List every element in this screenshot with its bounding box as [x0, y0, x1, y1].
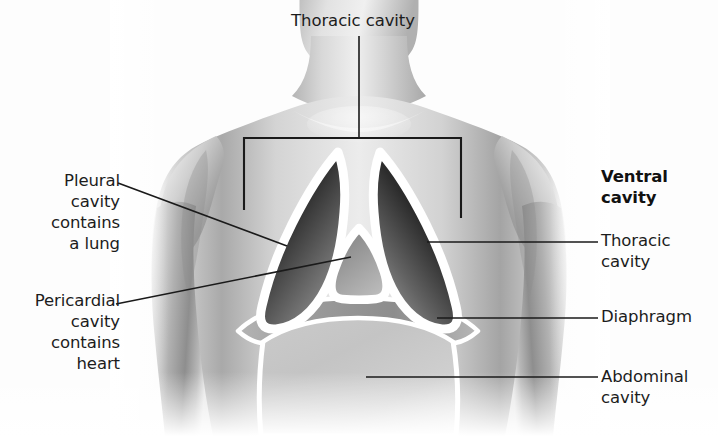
label-abdominal-cavity: Abdominal cavity: [601, 366, 718, 408]
label-thoracic-cavity-top: Thoracic cavity: [228, 10, 478, 31]
label-ventral-cavity: Ventral cavity: [601, 166, 717, 208]
anatomy-figure-page: Thoracic cavity Pleural cavity contains …: [0, 0, 718, 436]
label-diaphragm: Diaphragm: [601, 306, 717, 327]
label-pleural-cavity: Pleural cavity contains a lung: [8, 170, 120, 254]
label-pericardial-cavity: Pericardial cavity contains heart: [0, 290, 120, 374]
label-thoracic-cavity-right: Thoracic cavity: [601, 230, 717, 272]
